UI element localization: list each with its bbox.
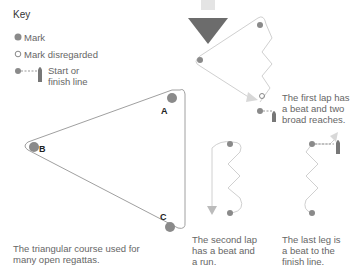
triangle-caption-2: many open regattas. <box>13 254 100 265</box>
course-diagrams <box>0 0 360 273</box>
triangle-caption-1: The triangular course used for <box>13 243 140 254</box>
last-leg-caption-3: finish line. <box>282 256 324 267</box>
mark-a <box>167 93 177 103</box>
filled-mark-icon <box>15 34 22 41</box>
mark-label-c: C <box>160 212 167 222</box>
start-finish-line-icon <box>15 67 42 82</box>
second-lap-caption-1: The second lap <box>192 234 257 245</box>
key-title: Key <box>13 9 30 20</box>
first-lap-caption-1: The first lap has <box>282 92 350 103</box>
wind-direction-arrow-icon <box>188 0 228 44</box>
mark-label-b: B <box>39 144 46 154</box>
key-mark-label: Mark <box>24 32 45 43</box>
key-start-line-label-2: finish line <box>48 76 88 87</box>
last-leg-diagram <box>305 132 340 216</box>
second-lap-caption-3: a run. <box>192 256 216 267</box>
mark-b <box>29 142 39 152</box>
last-leg-caption-1: The last leg is <box>282 234 341 245</box>
first-lap-caption-3: broad reaches. <box>282 114 345 125</box>
mark-label-a: A <box>161 106 168 116</box>
second-lap-diagram <box>207 141 242 216</box>
key-mark-disregarded-label: Mark disregarded <box>24 49 98 60</box>
second-lap-caption-2: has a beat and <box>192 245 255 256</box>
mark-c <box>165 222 175 232</box>
last-leg-caption-2: a beat to the <box>282 245 335 256</box>
first-lap-caption-2: a beat and two <box>282 103 344 114</box>
hollow-mark-icon <box>15 51 21 57</box>
key-start-line-label-1: Start or <box>48 65 79 76</box>
